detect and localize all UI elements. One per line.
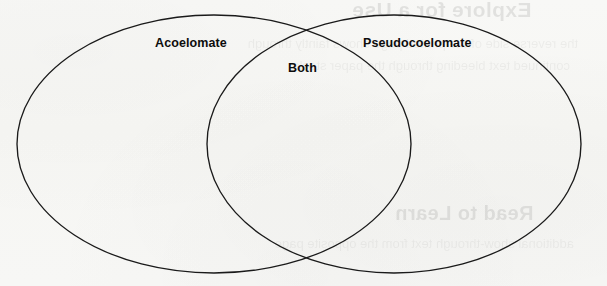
venn-diagram-graphic	[0, 0, 607, 286]
venn-label-acoelomate: Acoelomate	[155, 36, 227, 50]
venn-label-both: Both	[288, 61, 317, 75]
venn-diagram-page: the reverse side of the printed page sho…	[0, 0, 607, 286]
venn-circle-pseudocoelomate[interactable]	[207, 15, 581, 273]
venn-label-pseudocoelomate: Pseudocoelomate	[363, 36, 471, 50]
venn-circle-acoelomate[interactable]	[17, 15, 411, 273]
